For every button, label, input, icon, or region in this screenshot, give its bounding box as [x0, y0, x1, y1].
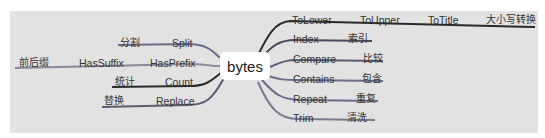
node-index[interactable]: Index: [293, 33, 319, 45]
node-replace[interactable]: Replace: [156, 95, 195, 107]
node-index-cn[interactable]: 索引: [348, 33, 368, 45]
node-count[interactable]: Count: [165, 76, 193, 88]
node-trim[interactable]: Trim: [293, 112, 314, 124]
node-prefix-suffix-cn[interactable]: 前后缀: [19, 57, 49, 69]
root-node[interactable]: bytes: [220, 52, 270, 80]
node-contains[interactable]: Contains: [293, 73, 334, 85]
node-replace-cn[interactable]: 替换: [104, 95, 124, 107]
node-split-cn[interactable]: 分割: [120, 37, 140, 49]
node-tolower[interactable]: ToLower: [292, 14, 332, 26]
node-compare[interactable]: Compare: [293, 53, 336, 65]
node-repeat-cn[interactable]: 重复: [356, 93, 376, 105]
root-label: bytes: [227, 58, 263, 75]
branch-lines: [0, 0, 545, 138]
node-trim-cn[interactable]: 清洗: [347, 112, 367, 124]
node-case-conversion[interactable]: 大小写转换: [486, 14, 536, 26]
node-totitle[interactable]: ToTitle: [428, 14, 459, 26]
node-repeat[interactable]: Repeat: [293, 93, 327, 105]
node-split[interactable]: Split: [172, 37, 192, 49]
node-count-cn[interactable]: 统计: [115, 76, 135, 88]
node-hasprefix[interactable]: HasPrefix: [150, 57, 196, 69]
node-hassuffix[interactable]: HasSuffix: [79, 57, 124, 69]
node-compare-cn[interactable]: 比较: [363, 53, 383, 65]
node-contains-cn[interactable]: 包含: [362, 73, 382, 85]
node-toupper[interactable]: ToUpper: [360, 14, 400, 26]
